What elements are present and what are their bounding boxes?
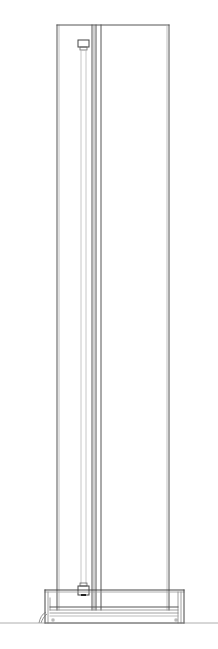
column-lamp-elevation-drawing xyxy=(0,0,218,649)
column-body xyxy=(57,25,169,610)
light-tube xyxy=(78,40,89,596)
power-cable xyxy=(39,612,47,623)
base-plinth xyxy=(45,590,184,623)
panel-divider xyxy=(92,25,101,610)
